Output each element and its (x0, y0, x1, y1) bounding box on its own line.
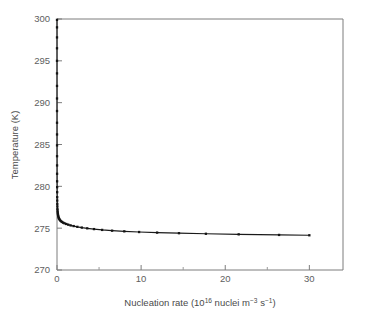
nucleation-temperature-chart: 270275280285290295300 0102030 Temperatur… (0, 0, 375, 323)
data-point (69, 224, 71, 226)
data-point (56, 60, 58, 62)
data-point (65, 223, 67, 225)
chart-figure: 270275280285290295300 0102030 Temperatur… (0, 0, 375, 323)
data-point (56, 26, 58, 28)
data-point (156, 231, 158, 233)
data-point (93, 228, 95, 230)
data-point (56, 186, 58, 188)
y-ticklabel-270: 270 (34, 264, 50, 275)
data-point (56, 122, 58, 124)
x-ticklabel-30: 30 (304, 273, 315, 284)
y-ticklabel-295: 295 (34, 55, 50, 66)
data-point (56, 173, 58, 175)
data-point (86, 227, 88, 229)
data-point (56, 36, 58, 38)
y-ticklabel-290: 290 (34, 97, 50, 108)
data-point (56, 196, 58, 198)
data-point (205, 233, 207, 235)
data-point (56, 155, 58, 157)
y-ticklabel-275: 275 (34, 223, 50, 234)
data-point (111, 230, 113, 232)
data-point (238, 233, 240, 235)
data-point (56, 47, 58, 49)
data-point (81, 226, 83, 228)
x-ticklabel-20: 20 (220, 273, 231, 284)
data-point (56, 19, 58, 21)
y-ticklabel-300: 300 (34, 13, 50, 24)
data-point (76, 226, 78, 228)
data-point (56, 203, 58, 205)
data-point (56, 180, 58, 182)
y-ticklabel-280: 280 (34, 181, 50, 192)
x-ticklabel-0: 0 (54, 273, 59, 284)
y-ticklabel-285: 285 (34, 139, 50, 150)
data-point (56, 85, 58, 87)
data-point (56, 133, 58, 135)
data-point (56, 164, 58, 166)
data-point (278, 234, 280, 236)
data-point (56, 199, 58, 201)
data-point (123, 230, 125, 232)
data-point (308, 234, 310, 236)
data-point (56, 110, 58, 112)
data-point (56, 97, 58, 99)
data-point (101, 229, 103, 231)
data-point (73, 225, 75, 227)
data-point (56, 205, 58, 207)
data-point (56, 72, 58, 74)
data-point (56, 144, 58, 146)
data-point (178, 232, 180, 234)
data-point (67, 224, 69, 226)
y-axis-title: Temperature (K) (9, 111, 20, 180)
data-point (56, 191, 58, 193)
data-point (138, 231, 140, 233)
x-ticklabel-10: 10 (136, 273, 147, 284)
